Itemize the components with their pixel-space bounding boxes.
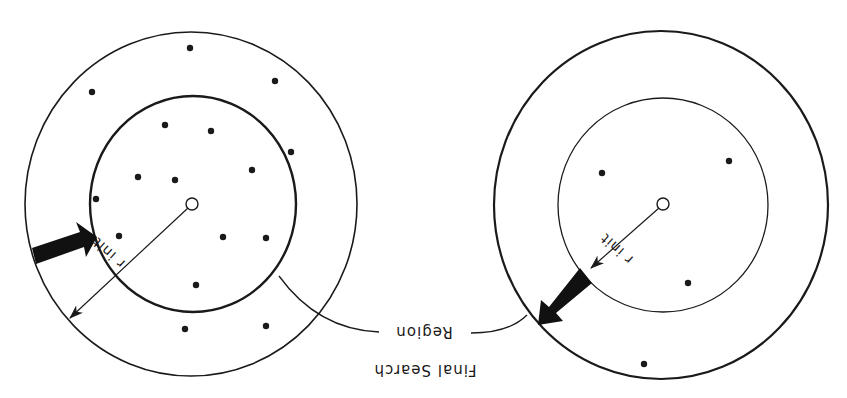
right-leader-line: [471, 315, 527, 333]
data-point: [685, 280, 691, 286]
left-data-points: [89, 45, 294, 332]
data-point: [263, 235, 269, 241]
data-point: [272, 78, 278, 84]
search-region-diagram: r init r init Region Final Search: [0, 0, 847, 398]
data-point: [93, 196, 99, 202]
data-point: [89, 89, 95, 95]
left-shrink-arrow-icon: [32, 222, 97, 264]
data-point: [193, 282, 199, 288]
data-point: [641, 361, 647, 367]
data-point: [249, 167, 255, 173]
right-radius-label: r init: [597, 230, 636, 268]
caption-region: Region: [395, 323, 452, 341]
left-leader-line: [279, 276, 379, 332]
data-point: [172, 177, 178, 183]
data-point: [182, 326, 188, 332]
data-point: [187, 45, 193, 51]
data-point: [726, 158, 732, 164]
left-radius-line: [70, 208, 188, 318]
data-point: [135, 174, 141, 180]
data-point: [288, 149, 294, 155]
data-point: [220, 234, 226, 240]
data-point: [263, 323, 269, 329]
right-center-marker: [657, 198, 669, 210]
data-point: [208, 128, 214, 134]
right-panel: r init: [494, 31, 828, 379]
left-panel: r init: [25, 32, 357, 376]
left-center-marker: [186, 198, 198, 210]
data-point: [116, 233, 122, 239]
right-expand-arrow-icon: [538, 268, 592, 325]
data-point: [599, 170, 605, 176]
caption-final-search: Final Search: [374, 361, 477, 379]
data-point: [162, 122, 168, 128]
